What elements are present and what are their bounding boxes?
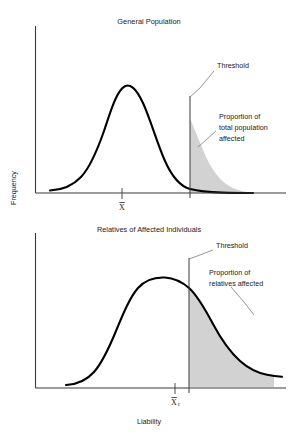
threshold-label-2: Threshold [216,241,248,250]
liability-threshold-figure: General Population Threshold Proportion … [0,0,298,437]
region-leader-2 [231,287,254,315]
panel-title-1: General Population [117,17,180,26]
distribution-curve-2 [66,277,282,385]
panel-general-population: General Population Threshold Proportion … [36,17,287,212]
region-label-1-line2: total population [219,123,268,132]
panel-title-2: Relatives of Affected Individuals [97,225,202,234]
y-axis-label: Frequency [9,171,18,205]
region-label-2-line1: Proportion of [209,268,250,277]
region-label-2-line2: relatives affected [209,279,263,288]
region-leader-1 [198,131,216,147]
x-axis-label: Liability [137,417,161,426]
svg-text:r: r [178,401,180,407]
mean-label-1: X [119,203,125,213]
shaded-area-2 [189,286,274,387]
region-label-1-line3: affected [219,134,244,143]
svg-text:X: X [119,203,125,212]
mean-label-2: X r [171,398,180,408]
panel-relatives-affected: Relatives of Affected Individuals Thresh… [36,225,287,407]
threshold-leader-1 [190,71,214,97]
threshold-label-1: Threshold [217,61,249,70]
svg-text:X: X [171,398,177,407]
region-label-1-line1: Proportion of [219,112,260,121]
threshold-leader-2 [189,250,213,259]
